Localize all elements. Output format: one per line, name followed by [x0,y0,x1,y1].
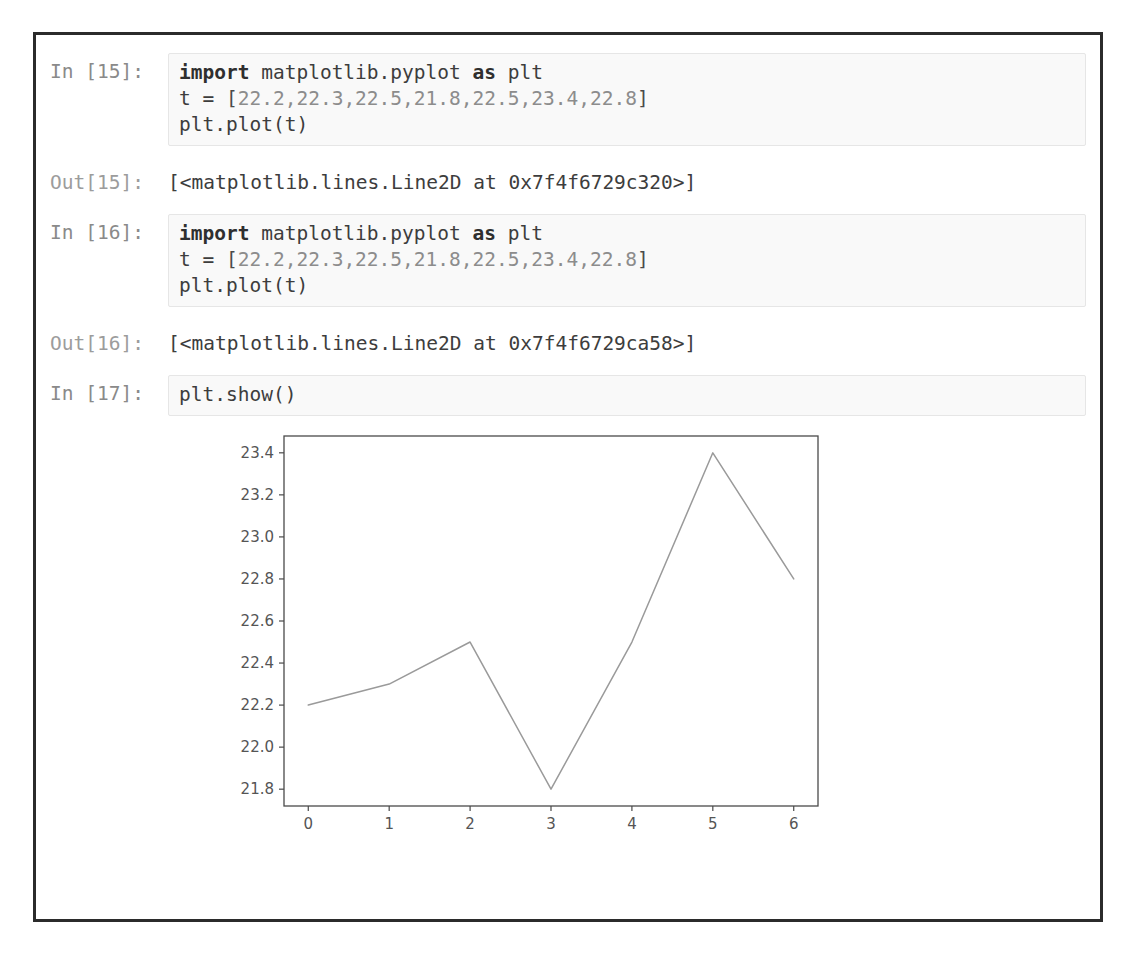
code-line: t = [22.2,22.3,22.5,21.8,22.5,23.4,22.8] [179,86,1075,112]
y-tick-label: 22.8 [241,570,274,588]
code-line: plt.plot(t) [179,112,1075,138]
cell-prompt-out-15: Out[15]: [50,164,168,196]
notebook-cell-out-15: Out[15]: [<matplotlib.lines.Line2D at 0x… [50,164,1086,196]
x-tick-label: 2 [465,815,475,833]
y-tick-label: 22.6 [241,612,274,630]
notebook-figure-output: 21.822.022.222.422.622.823.023.223.40123… [50,422,1086,842]
y-tick-label: 23.0 [241,528,274,546]
code-input-in-16[interactable]: import matplotlib.pyplot as plt t = [22.… [168,214,1086,307]
y-tick-label: 21.8 [241,780,274,798]
code-line: t = [22.2,22.3,22.5,21.8,22.5,23.4,22.8] [179,247,1075,273]
data-line-t [308,453,793,789]
y-tick-label: 22.2 [241,696,274,714]
code-line: import matplotlib.pyplot as plt [179,221,1075,247]
x-tick-label: 4 [627,815,637,833]
cell-output-text-16: [<matplotlib.lines.Line2D at 0x7f4f6729c… [168,325,1086,357]
x-tick-label: 1 [384,815,394,833]
y-tick-label: 23.4 [241,444,274,462]
line-chart-svg: 21.822.022.222.422.622.823.023.223.40123… [218,422,838,842]
x-tick-label: 5 [708,815,718,833]
cell-prompt-in-17: In [17]: [50,375,168,407]
x-tick-label: 0 [303,815,313,833]
notebook-cell-in-15[interactable]: In [15]: import matplotlib.pyplot as plt… [50,53,1086,146]
cell-prompt-in-15: In [15]: [50,53,168,85]
notebook-cell-out-16: Out[16]: [<matplotlib.lines.Line2D at 0x… [50,325,1086,357]
notebook-cell-in-16[interactable]: In [16]: import matplotlib.pyplot as plt… [50,214,1086,307]
code-line: import matplotlib.pyplot as plt [179,60,1075,86]
x-tick-label: 6 [789,815,799,833]
y-tick-label: 23.2 [241,486,274,504]
code-line: plt.show() [179,382,1075,408]
matplotlib-figure: 21.822.022.222.422.622.823.023.223.40123… [218,422,838,842]
code-input-in-15[interactable]: import matplotlib.pyplot as plt t = [22.… [168,53,1086,146]
notebook-output-frame: In [15]: import matplotlib.pyplot as plt… [33,32,1103,922]
figure-left-spacer [50,422,218,842]
notebook-cell-in-17[interactable]: In [17]: plt.show() [50,375,1086,416]
cell-prompt-in-16: In [16]: [50,214,168,246]
y-tick-label: 22.4 [241,654,274,672]
notebook-cell-list: In [15]: import matplotlib.pyplot as plt… [36,35,1100,919]
cell-output-text-15: [<matplotlib.lines.Line2D at 0x7f4f6729c… [168,164,1086,196]
y-tick-label: 22.0 [241,738,274,756]
code-line: plt.plot(t) [179,273,1075,299]
cell-prompt-out-16: Out[16]: [50,325,168,357]
x-tick-label: 3 [546,815,556,833]
code-input-in-17[interactable]: plt.show() [168,375,1086,416]
